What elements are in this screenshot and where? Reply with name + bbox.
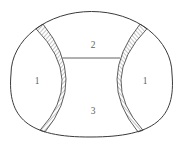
region-label-right: 1 [143, 77, 148, 87]
diagram-canvas [0, 0, 182, 150]
outer-boundary [11, 12, 173, 138]
left-hatched-band [36, 24, 66, 132]
topology-figure: 1 2 1 3 [0, 0, 182, 150]
region-label-bottom-center: 3 [91, 107, 96, 117]
region-label-left: 1 [35, 77, 40, 87]
region-label-top-center: 2 [91, 41, 96, 51]
